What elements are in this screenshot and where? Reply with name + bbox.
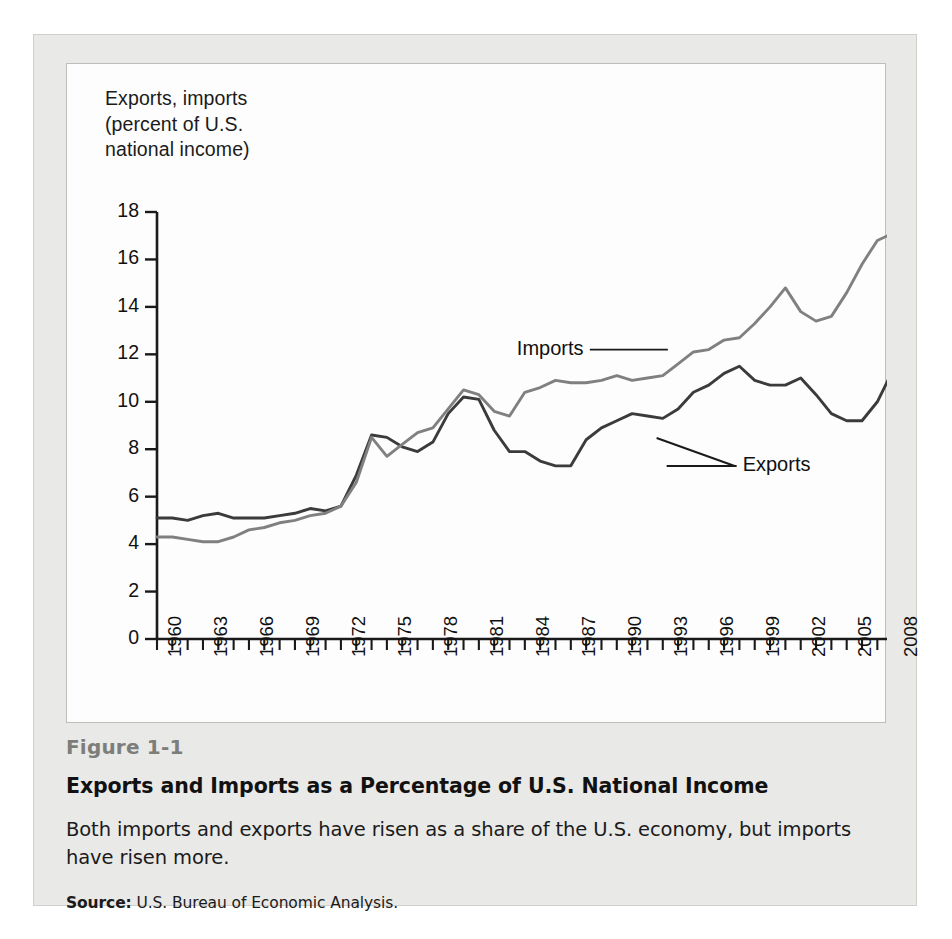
y-axis-tick-label: 16 <box>99 246 139 269</box>
figure-description: Both imports and exports have risen as a… <box>66 816 882 872</box>
x-axis-tick-label: 1978 <box>440 616 462 657</box>
x-axis-tick-label: 2008 <box>900 616 922 657</box>
leader-line-exports <box>657 438 735 466</box>
y-axis-tick-label: 0 <box>99 626 139 649</box>
series-line-exports <box>157 340 887 520</box>
x-axis-tick-label: 1969 <box>302 616 324 657</box>
x-axis-tick-label: 1999 <box>762 616 784 657</box>
x-axis-tick-label: 1972 <box>348 616 370 657</box>
x-axis-tick-label: 1987 <box>578 616 600 657</box>
series-label-imports: Imports <box>517 337 584 360</box>
x-axis-tick-label: 1996 <box>716 616 738 657</box>
x-axis-tick-label: 1975 <box>394 616 416 657</box>
figure-caption: Figure 1-1 Exports and Imports as a Perc… <box>66 735 882 912</box>
figure-source: Source: U.S. Bureau of Economic Analysis… <box>66 894 882 912</box>
figure-card: Exports, imports (percent of U.S. nation… <box>33 34 917 906</box>
x-axis-tick-label: 1984 <box>532 616 554 657</box>
x-axis-tick-label: 1963 <box>210 616 232 657</box>
source-text: U.S. Bureau of Economic Analysis. <box>132 894 398 912</box>
series-label-exports: Exports <box>743 453 811 476</box>
x-axis-tick-label: 1990 <box>624 616 646 657</box>
x-axis-tick-label: 1966 <box>256 616 278 657</box>
x-axis-tick-label: 2005 <box>854 616 876 657</box>
y-axis-tick-label: 8 <box>99 436 139 459</box>
y-axis-tick-label: 4 <box>99 531 139 554</box>
chart-plot-panel: Exports, imports (percent of U.S. nation… <box>66 63 886 723</box>
series-line-imports <box>157 221 887 541</box>
y-axis-tick-label: 6 <box>99 484 139 507</box>
y-axis-tick-label: 12 <box>99 341 139 364</box>
x-axis-tick-label: 1981 <box>486 616 508 657</box>
source-lead: Source: <box>66 894 132 912</box>
x-axis-tick-label: 2002 <box>808 616 830 657</box>
x-axis-tick-label: 1993 <box>670 616 692 657</box>
y-axis-tick-label: 18 <box>99 199 139 222</box>
y-axis-tick-label: 10 <box>99 389 139 412</box>
figure-number: Figure 1-1 <box>66 735 882 759</box>
y-axis-tick-label: 2 <box>99 579 139 602</box>
x-axis-tick-label: 1960 <box>164 616 186 657</box>
figure-title: Exports and Imports as a Percentage of U… <box>66 774 882 798</box>
y-axis-tick-label: 14 <box>99 294 139 317</box>
